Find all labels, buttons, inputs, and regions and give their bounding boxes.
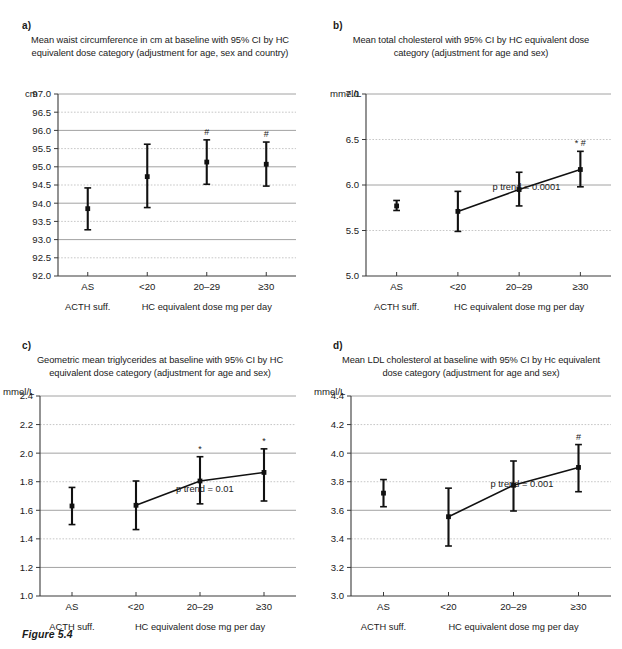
y-axis-tick-label: 96.5 [32, 107, 51, 118]
data-point-marker [576, 465, 581, 470]
y-axis-tick-label: 5.5 [346, 225, 359, 236]
y-axis-tick-label: 1.2 [20, 562, 33, 573]
x-axis-group-label-dose: HC equivalent dose mg per day [454, 302, 585, 312]
data-point-marker [85, 206, 90, 211]
x-axis-tick-label: 20–29 [500, 601, 527, 612]
y-axis-tick-label: 93.0 [32, 234, 51, 245]
y-axis-tick-label: 93.5 [32, 216, 51, 227]
x-axis-tick-label: 20–29 [506, 281, 533, 292]
data-point-marker [394, 204, 399, 209]
panel-d-plot: 3.03.23.43.63.84.04.24.4AS<2020–29#≥30p … [311, 338, 622, 649]
data-point-marker [264, 162, 269, 167]
y-axis-tick-label: 4.4 [331, 390, 345, 401]
y-axis-tick-label: 2.2 [20, 419, 33, 430]
data-point-marker [381, 491, 386, 496]
y-axis-tick-label: 1.8 [20, 476, 33, 487]
y-axis-tick-label: 3.4 [331, 533, 345, 544]
p-trend-annotation: p trend = 0.0001 [492, 182, 560, 192]
y-axis-tick-label: 3.2 [331, 562, 344, 573]
y-axis-tick-label: 2.0 [20, 448, 33, 459]
significance-marker: # [576, 432, 581, 442]
panel-b: b) Mean total cholesterol with 95% CI by… [311, 18, 622, 338]
x-axis-tick-label: ≥30 [571, 601, 587, 612]
y-axis-tick-label: 1.4 [20, 533, 34, 544]
y-axis-tick-label: 6.0 [346, 179, 359, 190]
y-axis-tick-label: 1.6 [20, 505, 33, 516]
x-axis-group-label-acth: ACTH suff. [374, 302, 419, 312]
y-axis-tick-label: 2.4 [20, 390, 34, 401]
y-axis-tick-label: 97.0 [32, 88, 51, 99]
figure-caption: Figure 5.4 [22, 628, 73, 640]
x-axis-group-label-dose: HC equivalent dose mg per day [142, 302, 273, 312]
significance-marker: * [198, 444, 202, 454]
x-axis-tick-label: <20 [440, 601, 456, 612]
x-axis-tick-label: ≥30 [256, 601, 272, 612]
x-axis-tick-label: 20–29 [187, 601, 214, 612]
data-point-marker [578, 167, 583, 172]
data-point-marker [262, 470, 267, 475]
x-axis-group-label-dose: HC equivalent dose mg per day [448, 622, 579, 632]
y-axis-tick-label: 1.0 [20, 590, 33, 601]
data-point-marker [198, 479, 203, 484]
x-axis-group-label-acth: ACTH suff. [65, 302, 110, 312]
y-axis-tick-label: 94.0 [32, 198, 51, 209]
data-point-marker [446, 514, 451, 519]
x-axis-tick-label: ≥30 [258, 281, 274, 292]
y-axis-tick-label: 3.0 [331, 590, 344, 601]
x-axis-group-label-dose: HC equivalent dose mg per day [135, 622, 266, 632]
x-axis-tick-label: <20 [128, 601, 144, 612]
y-axis-tick-label: 94.5 [32, 179, 51, 190]
panel-a: a) Mean waist circumference in cm at bas… [0, 18, 311, 338]
significance-marker: # [204, 127, 209, 137]
significance-marker: * [262, 436, 266, 446]
y-axis-tick-label: 3.6 [331, 505, 344, 516]
x-axis-tick-label: 20–29 [193, 281, 220, 292]
x-axis-tick-label: AS [66, 601, 79, 612]
x-axis-tick-label: AS [377, 601, 390, 612]
y-axis-tick-label: 4.0 [331, 448, 344, 459]
x-axis-tick-label: AS [390, 281, 403, 292]
x-axis-group-label-acth: ACTH suff. [361, 622, 406, 632]
y-axis-tick-label: 4.2 [331, 419, 344, 430]
y-axis-tick-label: 95.5 [32, 143, 51, 154]
y-axis-tick-label: 92.0 [32, 270, 51, 281]
x-axis-tick-label: <20 [450, 281, 466, 292]
data-point-marker [134, 503, 139, 508]
x-axis-tick-label: ≥30 [572, 281, 588, 292]
y-axis-tick-label: 5.0 [346, 270, 359, 281]
p-trend-annotation: p trend = 0.001 [491, 479, 554, 489]
data-point-marker [204, 160, 209, 165]
y-axis-tick-label: 96.0 [32, 125, 51, 136]
panel-c-plot: 1.01.21.41.61.82.02.22.4AS<20*20–29*≥30p… [0, 338, 311, 649]
y-axis-tick-label: 7.0 [346, 88, 359, 99]
data-point-marker [145, 174, 150, 179]
panel-c: c) Geometric mean triglycerides at basel… [0, 338, 311, 649]
y-axis-tick-label: 6.5 [346, 134, 359, 145]
p-trend-annotation: p trend = 0.01 [176, 484, 234, 494]
y-axis-tick-label: 95.0 [32, 161, 51, 172]
panel-d: d) Mean LDL cholesterol at baseline with… [311, 338, 622, 649]
data-point-marker [455, 209, 460, 214]
y-axis-tick-label: 92.5 [32, 252, 51, 263]
figure-root: a) Mean waist circumference in cm at bas… [0, 0, 622, 649]
x-axis-tick-label: <20 [139, 281, 155, 292]
significance-marker: # [264, 129, 269, 139]
panel-b-plot: 5.05.56.06.57.0AS<2020–29* #≥30p trend =… [311, 18, 622, 338]
significance-marker: * # [575, 138, 586, 148]
panel-a-plot: 92.092.593.093.594.094.595.095.596.096.5… [0, 18, 311, 338]
data-point-marker [70, 504, 75, 509]
y-axis-tick-label: 3.8 [331, 476, 344, 487]
x-axis-tick-label: AS [81, 281, 94, 292]
